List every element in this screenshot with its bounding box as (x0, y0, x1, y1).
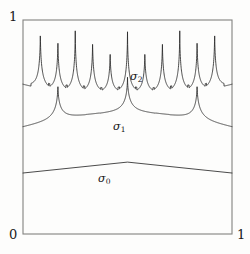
sigma2-subscript: 2 (138, 75, 143, 84)
sigma0-subscript: 0 (106, 177, 111, 186)
sigma2-glyph: σ (130, 70, 138, 83)
curve-sigma1 (23, 77, 232, 126)
figure-root: 1 0 1 σ2 σ1 σ0 (0, 0, 250, 254)
curve-label-sigma2: σ2 (130, 71, 142, 82)
curve-label-sigma0: σ0 (98, 173, 110, 184)
curve-label-sigma1: σ1 (113, 121, 125, 132)
sigma1-subscript: 1 (121, 125, 126, 134)
curve-sigma0 (23, 162, 232, 173)
sigma1-glyph: σ (113, 120, 121, 133)
x-axis-right-label: 1 (237, 228, 245, 241)
y-axis-top-label: 1 (9, 10, 17, 23)
curves-group (23, 31, 232, 173)
sigma0-glyph: σ (98, 172, 106, 185)
y-axis-bottom-label: 0 (9, 228, 17, 241)
